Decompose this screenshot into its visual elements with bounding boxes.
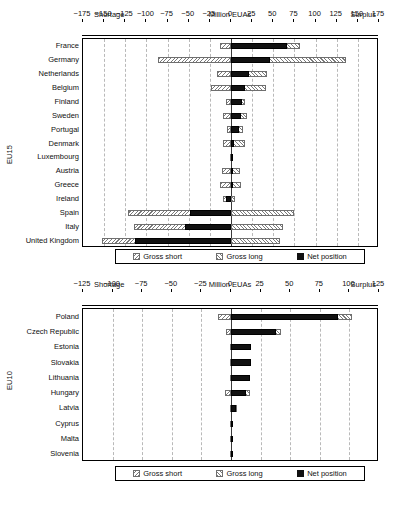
legend-label: Gross short	[143, 252, 182, 261]
x-tick-label: −25	[194, 279, 207, 288]
bar-gross-long	[231, 238, 280, 244]
x-tick-mark	[141, 289, 142, 293]
x-tick-mark	[289, 289, 290, 293]
category-label: Cyprus	[55, 420, 79, 428]
x-tick-mark	[82, 289, 83, 293]
category-label: Portugal	[51, 126, 79, 134]
bar-net-position	[231, 421, 233, 427]
category-label: Ireland	[56, 195, 79, 203]
bar-net-position	[231, 140, 234, 146]
short-swatch-icon	[133, 470, 140, 477]
category-label: Slovakia	[51, 359, 79, 367]
bar-net-position	[231, 168, 233, 174]
x-tick-label: 150	[351, 9, 364, 18]
category-label: United Kingdom	[26, 237, 79, 245]
legend-item: Net position	[297, 252, 347, 261]
x-tick-mark	[315, 19, 316, 23]
plot-area-eu15: FranceGermanyNetherlandsBelgiumFinlandSw…	[82, 38, 378, 247]
bar-gross-short	[223, 140, 231, 146]
bar-gross-short	[211, 85, 231, 91]
x-tick-label: −175	[74, 9, 91, 18]
bar-net-position	[226, 196, 231, 202]
x-tick-label: 75	[289, 9, 297, 18]
bar-net-position	[231, 71, 249, 77]
bar-net-position	[231, 43, 287, 49]
gridline	[316, 39, 317, 246]
x-tick-label: −25	[202, 9, 215, 18]
x-tick-label: −75	[135, 279, 148, 288]
category-label: Belgium	[52, 84, 79, 92]
bar-net-position	[135, 238, 231, 244]
legend-item: Gross short	[133, 469, 182, 478]
net-swatch-icon	[297, 253, 304, 260]
legend-label: Gross long	[226, 252, 262, 261]
x-tick-mark	[251, 19, 252, 23]
category-label: Latvia	[59, 405, 79, 413]
x-tick-label: −50	[181, 9, 194, 18]
bar-gross-short	[217, 71, 231, 77]
category-label: Czech Republic	[26, 328, 79, 336]
category-label: Denmark	[49, 140, 79, 148]
category-label: Greece	[54, 182, 79, 190]
short-swatch-icon	[133, 253, 140, 260]
category-label: Poland	[56, 313, 79, 321]
x-tick-mark	[260, 289, 261, 293]
bar-net-position	[231, 57, 270, 63]
category-label: Austria	[56, 168, 79, 176]
category-label: Netherlands	[39, 70, 79, 78]
bar-gross-long	[231, 210, 294, 216]
legend-label: Net position	[307, 252, 347, 261]
x-tick-label: 50	[285, 279, 293, 288]
bar-gross-short	[220, 43, 231, 49]
bar-net-position	[231, 314, 338, 320]
x-tick-mark	[200, 289, 201, 293]
x-tick-label: 75	[315, 279, 323, 288]
x-tick-mark	[319, 289, 320, 293]
x-tick-label: 125	[329, 9, 342, 18]
bar-net-position	[231, 182, 233, 188]
bar-net-position	[231, 113, 241, 119]
chart-panel-eu10: Shortage Million EUAs Surplus EU10 −125−…	[0, 266, 395, 508]
bar-gross-short	[220, 182, 231, 188]
bar-net-position	[231, 375, 250, 381]
long-swatch-icon	[216, 470, 223, 477]
x-tick-mark	[378, 289, 379, 293]
legend-item: Gross long	[216, 252, 262, 261]
x-tick-mark	[230, 289, 231, 293]
gridline	[142, 309, 143, 460]
bar-gross-short	[158, 57, 231, 63]
bar-net-position	[231, 436, 233, 442]
legend-label: Gross long	[226, 469, 262, 478]
x-tick-mark	[112, 289, 113, 293]
y-axis-label-eu10: EU10	[5, 366, 14, 396]
x-tick-mark	[82, 19, 83, 23]
gridline	[104, 39, 105, 246]
gridline	[172, 309, 173, 460]
x-tick-label: 100	[342, 279, 355, 288]
axis-line	[82, 35, 378, 36]
x-tick-label: −125	[74, 279, 91, 288]
x-tick-label: −100	[103, 279, 120, 288]
bar-net-position	[185, 224, 231, 230]
x-tick-label: 0	[228, 279, 232, 288]
bar-net-position	[231, 329, 276, 335]
legend-item: Gross short	[133, 252, 182, 261]
x-tick-mark	[171, 289, 172, 293]
x-tick-label: −100	[137, 9, 154, 18]
x-tick-label: −125	[116, 9, 133, 18]
category-label: Luxembourg	[37, 154, 79, 162]
y-axis-label-eu15: EU15	[5, 140, 14, 170]
gridline	[358, 39, 359, 246]
bar-net-position	[231, 405, 236, 411]
gridline	[320, 309, 321, 460]
x-axis-eu10: −125−100−75−50−250255075100125	[82, 292, 378, 306]
plot-area-eu10: PolandCzech RepublicEstoniaSlovakiaLithu…	[82, 308, 378, 461]
x-tick-label: 25	[247, 9, 255, 18]
x-tick-label: 175	[372, 9, 385, 18]
bar-net-position	[231, 390, 246, 396]
figure-eua-positions: Shortage Million EUAs Surplus EU15 −175−…	[0, 0, 395, 508]
bar-net-position	[231, 154, 233, 160]
bar-net-position	[231, 99, 242, 105]
x-tick-label: −50	[164, 279, 177, 288]
bar-net-position	[231, 451, 233, 457]
